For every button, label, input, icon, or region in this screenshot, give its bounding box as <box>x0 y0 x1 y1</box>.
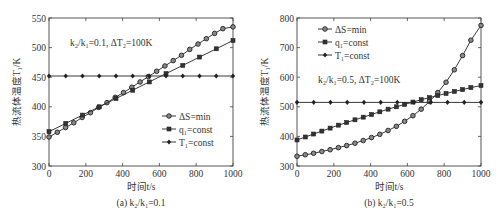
data-point-marker <box>181 63 185 67</box>
y-tick-label: 450 <box>32 73 47 83</box>
legend-label: T₁=const <box>179 138 214 148</box>
data-point-marker <box>320 129 324 133</box>
subfigure-caption: (b) k₂/k₁=0.5 <box>364 198 414 209</box>
data-point-marker <box>97 73 101 78</box>
data-point-marker <box>452 89 456 93</box>
data-point-marker <box>179 53 184 58</box>
data-point-marker <box>231 38 235 42</box>
y-tick-label: 400 <box>32 102 47 112</box>
legend-marker-icon <box>167 139 171 144</box>
data-point-marker <box>344 143 349 148</box>
data-point-marker <box>411 113 416 118</box>
data-point-marker <box>187 47 192 52</box>
legend-marker-icon <box>167 127 171 131</box>
data-point-marker <box>479 83 483 87</box>
data-point-marker <box>378 132 383 137</box>
y-tick-label: 400 <box>280 132 295 142</box>
data-point-marker <box>370 112 374 116</box>
data-point-marker <box>303 152 308 157</box>
data-point-marker <box>80 73 84 78</box>
data-point-marker <box>221 26 226 31</box>
data-point-marker <box>163 64 168 69</box>
x-tick-label: 200 <box>327 169 342 179</box>
data-point-marker <box>419 98 423 102</box>
data-point-marker <box>47 135 52 140</box>
data-point-marker <box>198 55 202 59</box>
data-point-marker <box>444 91 448 95</box>
data-point-marker <box>361 138 366 143</box>
legend: ΔS=minq₁=constT₁=const <box>318 25 370 61</box>
data-point-marker <box>445 100 449 105</box>
x-tick-label: 0 <box>295 169 300 179</box>
data-point-marker <box>63 125 68 130</box>
data-point-marker <box>328 126 332 130</box>
data-point-marker <box>197 73 201 78</box>
data-point-marker <box>295 100 299 105</box>
x-tick-label: 600 <box>152 169 167 179</box>
data-point-marker <box>181 73 185 78</box>
data-point-marker <box>419 107 424 112</box>
legend-label: T₁=const <box>335 51 370 61</box>
data-point-marker <box>402 119 407 124</box>
x-tick-label: 800 <box>189 169 204 179</box>
legend-marker-icon <box>323 27 328 32</box>
data-point-marker <box>403 102 407 106</box>
x-tick-label: 600 <box>400 169 415 179</box>
y-tick-label: 300 <box>32 162 47 172</box>
data-point-marker <box>452 68 457 73</box>
legend-marker-icon <box>323 52 327 57</box>
chart-a: 02004006008001000300350400450500550时间t/s… <box>11 14 243 210</box>
y-tick-label: 500 <box>32 43 47 53</box>
data-point-marker <box>55 130 60 135</box>
data-point-marker <box>231 25 236 30</box>
data-point-marker <box>395 100 399 105</box>
y-tick-label: 700 <box>280 43 295 53</box>
legend-label: ΔS=min <box>179 112 211 122</box>
data-point-marker <box>171 58 176 63</box>
data-point-marker <box>369 135 374 140</box>
legend-label: q₁=const <box>335 38 369 48</box>
chart-b: 02004006008001000300400500600700800时间t/s… <box>259 14 491 210</box>
data-point-marker <box>379 100 383 105</box>
data-point-marker <box>378 110 382 114</box>
x-tick-label: 400 <box>363 169 378 179</box>
y-tick-label: 800 <box>280 14 295 24</box>
data-point-marker <box>444 80 449 85</box>
data-point-marker <box>231 73 235 78</box>
data-point-marker <box>97 105 101 109</box>
data-point-marker <box>461 88 465 92</box>
data-point-marker <box>312 132 316 136</box>
legend-label: ΔS=min <box>335 25 367 35</box>
series-2 <box>295 100 483 105</box>
data-point-marker <box>147 80 151 84</box>
data-point-marker <box>362 100 366 105</box>
x-tick-label: 200 <box>79 169 94 179</box>
series-1 <box>295 83 483 141</box>
y-axis-label: 热流体温度T₁/K <box>259 58 270 127</box>
data-point-marker <box>214 47 218 51</box>
data-point-marker <box>328 100 332 105</box>
parameter-annotation: k₂/k₁=0.1, ΔT₂=100K <box>70 38 153 48</box>
x-axis-label: 时间t/s <box>127 181 156 192</box>
data-point-marker <box>394 105 398 109</box>
y-tick-label: 500 <box>280 102 295 112</box>
data-point-marker <box>336 123 340 127</box>
data-point-marker <box>427 96 431 100</box>
data-point-marker <box>80 113 84 117</box>
data-point-marker <box>353 118 357 122</box>
data-point-marker <box>328 147 333 152</box>
data-point-marker <box>196 42 201 47</box>
data-point-marker <box>469 38 474 43</box>
data-point-marker <box>460 53 465 58</box>
x-tick-label: 0 <box>47 169 52 179</box>
y-axis-label: 热流体温度T₁/K <box>11 58 22 127</box>
data-point-marker <box>204 36 209 41</box>
data-point-marker <box>394 124 399 129</box>
legend-label: q₁=const <box>179 125 213 135</box>
y-tick-label: 550 <box>32 14 47 24</box>
data-point-marker <box>361 115 365 119</box>
data-point-marker <box>154 69 159 74</box>
data-point-marker <box>479 100 483 105</box>
x-tick-label: 400 <box>115 169 130 179</box>
data-point-marker <box>114 73 118 78</box>
